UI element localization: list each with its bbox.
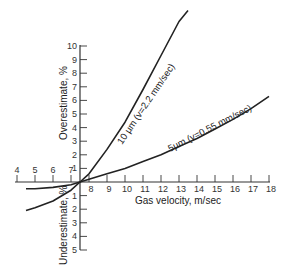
x-tick-label: 12 [158, 184, 168, 194]
y-tick-label: 4 [72, 123, 77, 133]
y-tick-label: 5 [72, 245, 77, 255]
y-tick-label: 1 [72, 191, 77, 201]
y-axis-title-over: Overestimate, % [58, 66, 69, 140]
y-tick-label: 3 [72, 136, 77, 146]
chart: 456789101112131415161718 Gas velocity, m… [0, 0, 286, 278]
y-tick-label: 2 [72, 204, 77, 214]
x-tick-label: 8 [88, 184, 93, 194]
y-tick-label: 1 [72, 163, 77, 173]
y-tick-label: 10 [67, 41, 77, 51]
x-tick-label: 13 [176, 184, 186, 194]
y-tick-label: 3 [72, 218, 77, 228]
y-tick-label: 5 [72, 109, 77, 119]
x-tick-label: 9 [106, 184, 111, 194]
x-ticks: 456789101112131415161718 [14, 165, 276, 194]
x-tick-label: 10 [122, 184, 132, 194]
x-tick-label: 14 [194, 184, 204, 194]
y-tick-label: 7 [72, 82, 77, 92]
x-tick-label: 16 [230, 184, 240, 194]
y-tick-label: 8 [72, 68, 77, 78]
x-tick-label: 5 [32, 165, 37, 175]
y-tick-label: 6 [72, 95, 77, 105]
x-tick-label: 18 [266, 184, 276, 194]
y-tick-label: 9 [72, 55, 77, 65]
x-axis-title: Gas velocity, m/sec [135, 195, 221, 206]
x-tick-label: 4 [14, 165, 19, 175]
y-tick-label: 4 [72, 231, 77, 241]
x-tick-label: 11 [140, 184, 149, 194]
curve-label-10um: 10 µm (v=2.2 mm/sec) [115, 61, 177, 146]
y-axis: 1234567891012345 Overestimate, % Underes… [58, 41, 87, 265]
curve-label-5um: 5µm (v=0.55 mm/sec) [166, 102, 253, 154]
y-tick-label: 2 [72, 150, 77, 160]
x-tick-label: 6 [50, 165, 55, 175]
x-tick-label: 17 [248, 184, 258, 194]
y-ticks: 1234567891012345 [67, 41, 87, 255]
x-tick-label: 15 [212, 184, 222, 194]
